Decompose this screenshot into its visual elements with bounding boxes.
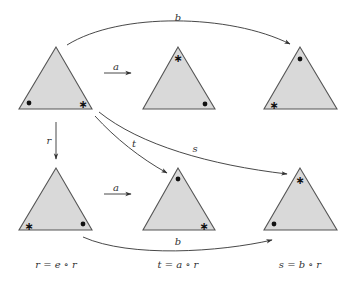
arrow-s: s xyxy=(99,112,287,174)
arrow-label-s: s xyxy=(192,143,197,154)
dot-marker xyxy=(272,222,277,227)
dot-marker xyxy=(203,102,208,107)
dot-marker xyxy=(27,101,32,106)
arrow-top-b: b xyxy=(67,12,290,45)
triangle-top-right: ∗ xyxy=(264,47,337,112)
arrow-bottom-a: a xyxy=(104,182,131,194)
triangle-bottom-right: ∗ xyxy=(264,168,337,230)
arrow-label-b: b xyxy=(175,236,181,247)
star-marker: ∗ xyxy=(199,220,208,233)
arrow-label-t: t xyxy=(132,138,137,149)
dot-marker xyxy=(176,177,181,182)
caption-left: r = e ∘ r xyxy=(35,259,78,270)
caption-right: s = b ∘ r xyxy=(279,259,323,270)
arrow-label-a: a xyxy=(113,182,119,193)
arrow-bottom-b: b xyxy=(83,236,272,251)
commutative-diagram: ∗ ∗ ∗ ∗ ∗ ∗ b a r xyxy=(0,0,354,281)
triangle-top-middle: ∗ xyxy=(143,47,215,109)
star-marker: ∗ xyxy=(78,98,87,111)
arrow-label-a: a xyxy=(113,61,119,72)
arrow-r: r xyxy=(47,122,56,159)
star-marker: ∗ xyxy=(269,99,278,112)
arrow-label-b: b xyxy=(175,12,181,23)
triangle-top-left: ∗ xyxy=(19,47,92,111)
star-marker: ∗ xyxy=(295,174,304,187)
triangle-bottom-left: ∗ xyxy=(19,168,92,233)
arrow-top-a: a xyxy=(104,61,131,73)
arrow-label-r: r xyxy=(47,135,53,146)
star-marker: ∗ xyxy=(173,52,182,65)
star-marker: ∗ xyxy=(24,220,33,233)
caption-middle: t = a ∘ r xyxy=(158,259,200,270)
dot-marker xyxy=(298,57,303,62)
triangle-bottom-middle: ∗ xyxy=(143,168,215,233)
arrow-t: t xyxy=(95,116,167,173)
dot-marker xyxy=(81,222,86,227)
